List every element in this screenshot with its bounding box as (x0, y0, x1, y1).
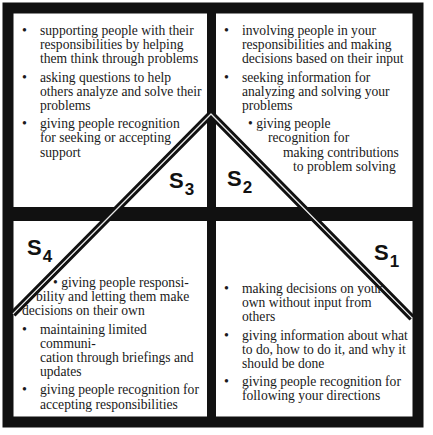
s4-item: • giving people responsi- bility and let… (18, 276, 206, 319)
leadership-style-diagram: supporting people with their responsibil… (0, 0, 433, 435)
s1-behavior-list: making decisions on your own without inp… (220, 282, 412, 404)
style-label-s1: S1 (374, 242, 399, 264)
s3-item: asking questions to help others analyze … (18, 71, 203, 114)
s3-item: giving people recognition for seeking or… (18, 117, 203, 160)
s2-item: • giving people recognition for making c… (220, 117, 412, 174)
s2-item: involving people in your responsibilitie… (220, 24, 412, 67)
quadrant-s4-content: • giving people responsi- bility and let… (18, 276, 206, 416)
s1-item: making decisions on your own without inp… (220, 282, 412, 325)
s1-item: giving people recognition for following … (220, 375, 412, 403)
quadrant-s3-content: supporting people with their responsibil… (18, 24, 203, 164)
style-label-s4: S4 (27, 237, 52, 259)
s1-item: giving information about what to do, how… (220, 329, 412, 372)
s3-item: supporting people with their responsibil… (18, 24, 203, 67)
horizontal-divider (8, 207, 418, 221)
style-label-s3: S3 (169, 170, 194, 192)
s2-behavior-list: involving people in your responsibilitie… (220, 24, 412, 174)
s4-item: giving people recognition for accepting … (18, 383, 206, 411)
quadrant-s2-content: involving people in your responsibilitie… (220, 24, 412, 178)
s4-behavior-list: • giving people responsi- bility and let… (18, 276, 206, 412)
s2-item: seeking information for analyzing and so… (220, 71, 412, 114)
s4-item: maintaining limited communi- cation thro… (18, 323, 206, 380)
quadrant-s1-content: making decisions on your own without inp… (220, 282, 412, 408)
style-label-s2: S2 (227, 168, 252, 190)
s3-behavior-list: supporting people with their responsibil… (18, 24, 203, 160)
